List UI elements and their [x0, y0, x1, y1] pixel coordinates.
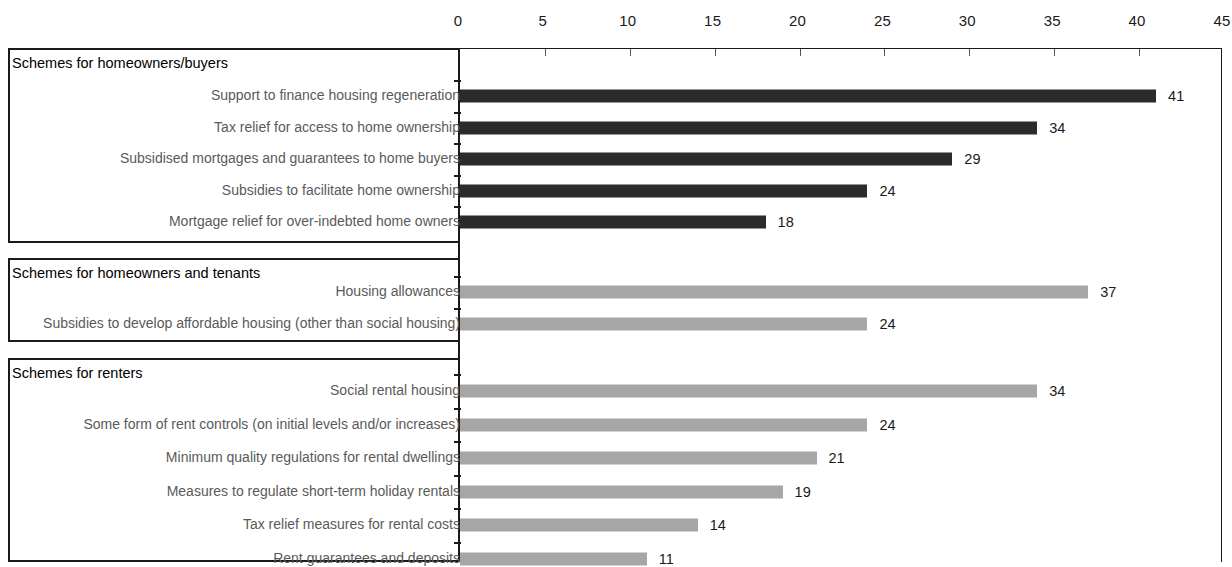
bar	[460, 452, 817, 465]
plot-top-tick-15	[715, 49, 716, 56]
x-axis-tick-10: 10	[619, 12, 636, 29]
bar-value-label: 34	[1049, 383, 1065, 399]
category-label: Social rental housing	[330, 382, 460, 398]
bar-value-label: 24	[879, 183, 895, 199]
category-label: Minimum quality regulations for rental d…	[166, 449, 460, 465]
category-label: Subsidised mortgages and guarantees to h…	[120, 150, 460, 166]
category-label: Measures to regulate short-term holiday …	[167, 483, 460, 499]
category-label: Tax relief for access to home ownership	[214, 119, 460, 135]
bar	[460, 216, 766, 229]
plot-top-tick-40	[1139, 49, 1140, 56]
group-title-1: Schemes for homeowners/buyers	[12, 55, 228, 71]
plot-top-tick-20	[800, 49, 801, 56]
bar-value-label: 11	[659, 551, 674, 567]
x-axis-tick-45: 45	[1213, 12, 1230, 29]
x-axis-tick-20: 20	[789, 12, 806, 29]
category-label: Subsidies to develop affordable housing …	[43, 315, 460, 331]
bar-value-label: 29	[964, 151, 980, 167]
plot-top-tick-35	[1054, 49, 1055, 56]
plot-top-tick-30	[969, 49, 970, 56]
x-axis-tick-25: 25	[874, 12, 891, 29]
bar	[460, 519, 698, 532]
bar	[460, 418, 867, 431]
category-label: Subsidies to facilitate home ownership	[222, 182, 460, 198]
bar-value-label: 41	[1168, 88, 1184, 104]
category-label: Support to finance housing regeneration	[211, 87, 460, 103]
bar	[460, 153, 952, 166]
x-axis-tick-labels: 051015202530354045	[0, 12, 1232, 36]
bar	[460, 184, 867, 197]
group-title-2: Schemes for homeowners and tenants	[12, 265, 260, 281]
category-label: Some form of rent controls (on initial l…	[83, 416, 460, 432]
plot-top-tick-10	[630, 49, 631, 56]
bar-value-label: 24	[879, 417, 895, 433]
plot-area: 41342924183724342421191411	[458, 48, 1222, 562]
bar	[460, 286, 1088, 299]
bar-value-label: 24	[879, 316, 895, 332]
bar-value-label: 19	[795, 484, 811, 500]
plot-top-tick-5	[545, 49, 546, 56]
bar	[460, 121, 1037, 134]
x-axis-tick-35: 35	[1044, 12, 1061, 29]
x-axis-tick-30: 30	[959, 12, 976, 29]
bar	[460, 552, 647, 565]
category-label: Housing allowances	[335, 283, 460, 299]
x-axis-tick-5: 5	[539, 12, 548, 29]
category-label: Rent guarantees and deposits	[273, 550, 460, 566]
group-title-3: Schemes for renters	[12, 365, 143, 381]
bar-value-label: 21	[829, 450, 845, 466]
bar-value-label: 34	[1049, 120, 1065, 136]
bar	[460, 385, 1037, 398]
bar	[460, 318, 867, 331]
category-label: Mortgage relief for over-indebted home o…	[169, 213, 460, 229]
bar-value-label: 18	[778, 214, 794, 230]
x-axis-tick-40: 40	[1129, 12, 1146, 29]
x-axis-tick-0: 0	[454, 12, 463, 29]
category-label: Tax relief measures for rental costs	[243, 516, 460, 532]
bar-value-label: 37	[1100, 284, 1116, 300]
plot-top-tick-25	[884, 49, 885, 56]
bar-value-label: 14	[710, 517, 726, 533]
bar	[460, 90, 1156, 103]
x-axis-tick-15: 15	[704, 12, 721, 29]
bar	[460, 485, 783, 498]
